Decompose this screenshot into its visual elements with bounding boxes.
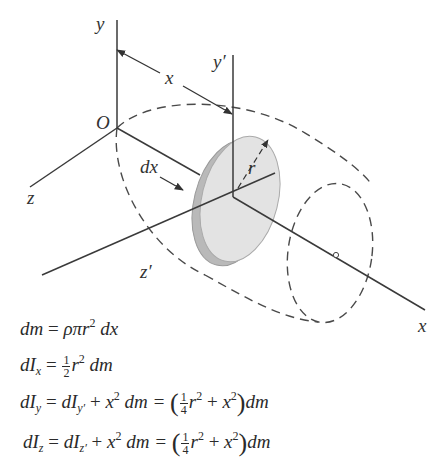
centroid-marker [333, 252, 338, 257]
equation-dIz: dIz = dIz′ + x2 dm = (14r2 + x2)dm [23, 430, 270, 456]
origin-label: O [96, 113, 110, 132]
fraction-one-quarter: 14 [180, 391, 188, 416]
fraction-one-half: 12 [62, 354, 70, 379]
y-prime-axis-label: y′ [213, 52, 226, 71]
z-axis [30, 128, 117, 187]
equation-dm: dm = ρπr2 dx [20, 317, 118, 338]
equation-dIy: dIy = dIy′ + x2 dm = (14r2 + x2)dm [20, 390, 269, 416]
z-prime-axis-label: z′ [140, 262, 152, 281]
fraction-one-quarter: 14 [181, 431, 189, 456]
x-distance-label: x [165, 68, 173, 87]
equation-dIx: dIx = 12r2 dm [20, 353, 113, 379]
dx-label: dx [140, 157, 158, 176]
radius-label: r [248, 158, 255, 177]
x-axis-label: x [418, 316, 426, 335]
x-axis [117, 128, 200, 175]
disk-element [180, 128, 293, 275]
z-axis-label: z [27, 188, 34, 207]
y-axis-label: y [96, 14, 104, 33]
